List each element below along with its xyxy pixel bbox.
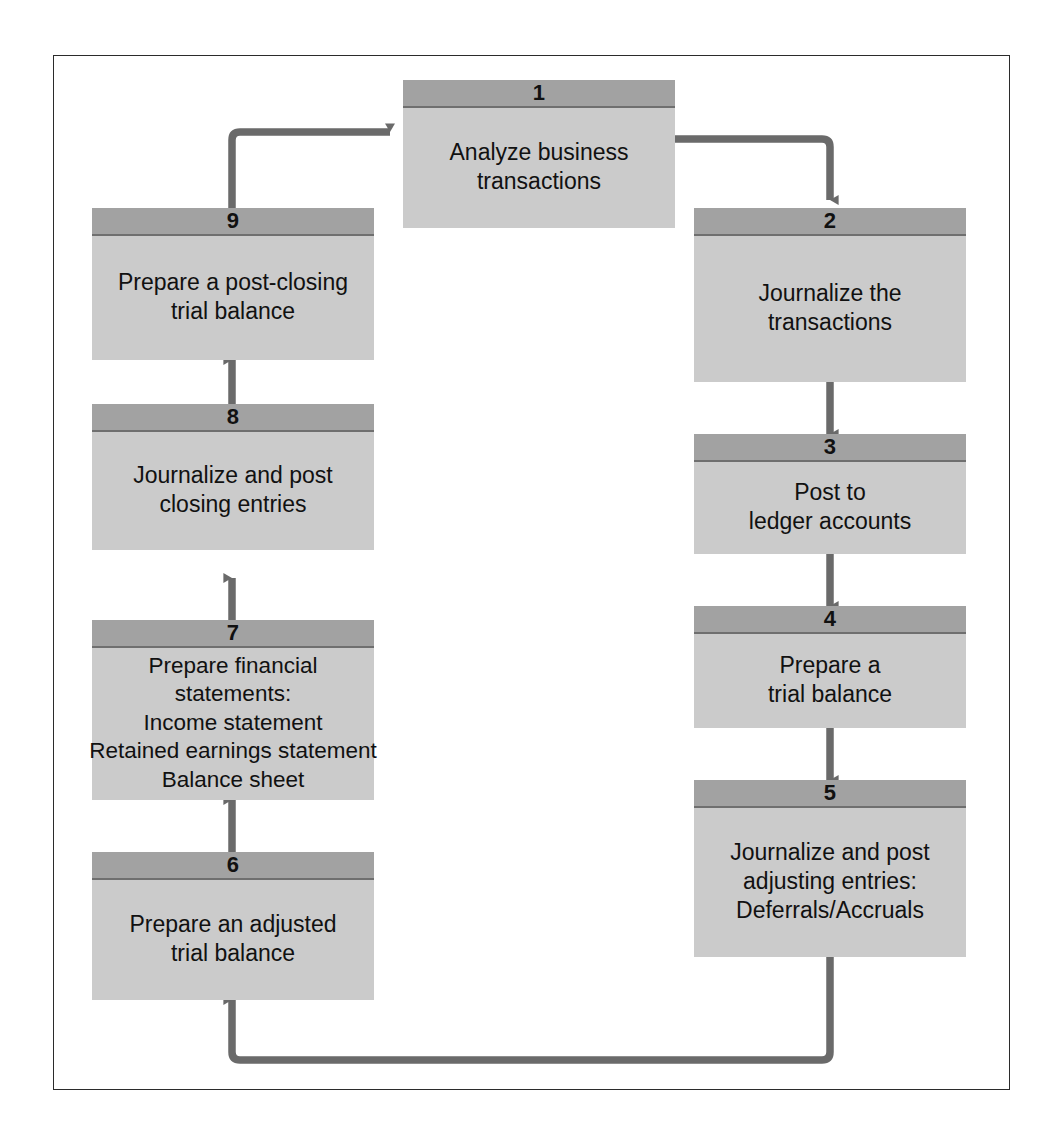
step-node-6[interactable]: 6 Prepare an adjusted trial balance xyxy=(92,852,374,1000)
step-label-3: Post to ledger accounts xyxy=(694,462,966,554)
step-node-1[interactable]: 1 Analyze business transactions xyxy=(403,80,675,228)
step-number-1: 1 xyxy=(403,80,675,108)
step-node-8[interactable]: 8 Journalize and post closing entries xyxy=(92,404,374,550)
step-node-3[interactable]: 3 Post to ledger accounts xyxy=(694,434,966,554)
step-label-1: Analyze business transactions xyxy=(403,108,675,228)
step-number-5: 5 xyxy=(694,780,966,808)
step-label-7: Prepare financial statements: Income sta… xyxy=(92,648,374,800)
step-number-2: 2 xyxy=(694,208,966,236)
step-node-2[interactable]: 2 Journalize the transactions xyxy=(694,208,966,382)
step-number-3: 3 xyxy=(694,434,966,462)
step-number-4: 4 xyxy=(694,606,966,634)
step-number-9: 9 xyxy=(92,208,374,236)
step-node-7[interactable]: 7 Prepare financial statements: Income s… xyxy=(92,620,374,800)
step-label-4: Prepare a trial balance xyxy=(694,634,966,728)
step-label-8: Journalize and post closing entries xyxy=(92,432,374,550)
step-label-5: Journalize and post adjusting entries: D… xyxy=(694,808,966,957)
step-label-9: Prepare a post-closing trial balance xyxy=(92,236,374,360)
step-node-5[interactable]: 5 Journalize and post adjusting entries:… xyxy=(694,780,966,957)
step-node-4[interactable]: 4 Prepare a trial balance xyxy=(694,606,966,728)
step-number-8: 8 xyxy=(92,404,374,432)
step-label-2: Journalize the transactions xyxy=(694,236,966,382)
accounting-cycle-diagram: 1 Analyze business transactions 2 Journa… xyxy=(0,0,1060,1139)
step-label-6: Prepare an adjusted trial balance xyxy=(92,880,374,1000)
step-number-7: 7 xyxy=(92,620,374,648)
step-node-9[interactable]: 9 Prepare a post-closing trial balance xyxy=(92,208,374,360)
step-number-6: 6 xyxy=(92,852,374,880)
